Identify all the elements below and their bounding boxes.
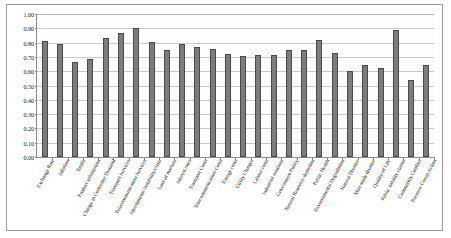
bar-slot <box>373 14 388 157</box>
bar-slot <box>83 14 98 157</box>
bar-slot <box>129 14 144 157</box>
bar <box>286 50 292 157</box>
y-axis-tick-label: 0.00 <box>24 154 34 161</box>
x-axis-category-label: Telecommunication Costs <box>192 158 223 209</box>
bar-slot <box>342 14 357 157</box>
bar-slot <box>358 14 373 157</box>
y-axis-tick-label: 0.20 <box>24 125 34 132</box>
bar <box>393 30 399 157</box>
bar <box>149 42 155 157</box>
bar <box>42 41 48 157</box>
y-axis-tick-label: 0.80 <box>24 39 34 46</box>
bar-slot <box>52 14 67 157</box>
bar-slot <box>205 14 220 157</box>
bar <box>332 53 338 157</box>
bar <box>179 44 185 157</box>
bar-slot <box>312 14 327 157</box>
bar-slot <box>190 14 205 157</box>
bar-slot <box>68 14 83 157</box>
bar <box>362 65 368 157</box>
plot-area: 0.000.100.200.300.400.500.600.700.800.90… <box>36 14 434 158</box>
bar-slot <box>327 14 342 157</box>
bar <box>103 38 109 157</box>
bar-slot <box>113 14 128 157</box>
y-axis-tick-label: 0.50 <box>24 82 34 89</box>
bar-slot <box>98 14 113 157</box>
bar-slot <box>251 14 266 157</box>
bar <box>118 33 124 157</box>
bar-slot <box>174 14 189 157</box>
y-axis-tick-label: 0.40 <box>24 96 34 103</box>
bar <box>301 50 307 157</box>
bar <box>316 40 322 157</box>
bar-slot <box>281 14 296 157</box>
bar-slot <box>419 14 434 157</box>
y-axis-tick-label: 1.00 <box>24 11 34 18</box>
bar <box>408 80 414 157</box>
x-axis-category-label: Exchange Rate <box>35 158 55 189</box>
x-axis-category-labels: Exchange RateInflationTariffsProduct sub… <box>36 158 434 232</box>
bar-slot <box>388 14 403 157</box>
bar <box>347 71 353 157</box>
x-axis-category-label: Tariffs <box>74 158 86 173</box>
bar-slot <box>220 14 235 157</box>
bar <box>164 50 170 157</box>
y-axis-tick-label: 0.10 <box>24 139 34 146</box>
bar <box>57 44 63 157</box>
bar-slot <box>144 14 159 157</box>
y-axis-tick-label: 0.30 <box>24 111 34 118</box>
bar-series <box>37 14 434 157</box>
bar-slot <box>37 14 52 157</box>
bar-slot <box>266 14 281 157</box>
bar <box>255 55 261 157</box>
y-axis-tick-label: 0.70 <box>24 53 34 60</box>
bar <box>271 55 277 157</box>
y-axis-tick-label: 0.90 <box>24 25 34 32</box>
bar <box>378 68 384 157</box>
bar <box>194 47 200 157</box>
bar-slot <box>159 14 174 157</box>
bar <box>423 65 429 157</box>
bar <box>87 59 93 157</box>
bar-slot <box>236 14 251 157</box>
bar-slot <box>403 14 418 157</box>
chart-figure: 0.000.100.200.300.400.500.600.700.800.90… <box>0 0 451 238</box>
bar <box>210 49 216 157</box>
bar <box>72 62 78 157</box>
x-axis-category-label: Natural Resource depletion <box>283 158 315 212</box>
y-axis-tick-label: 0.60 <box>24 68 34 75</box>
x-axis-category-label: Inflation <box>57 158 71 177</box>
bar <box>240 56 246 157</box>
bar-slot <box>297 14 312 157</box>
bar <box>225 54 231 157</box>
bar <box>133 28 139 157</box>
